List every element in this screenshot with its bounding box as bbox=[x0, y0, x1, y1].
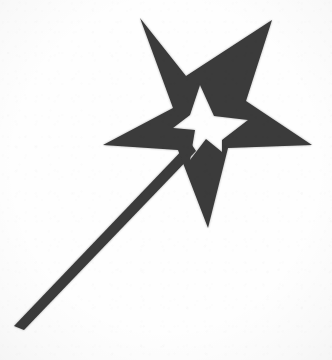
magic-wand-illustration: Magic Wand Silhouette of a magic wand: a… bbox=[0, 0, 332, 360]
image-canvas: Magic Wand Silhouette of a magic wand: a… bbox=[0, 0, 332, 360]
